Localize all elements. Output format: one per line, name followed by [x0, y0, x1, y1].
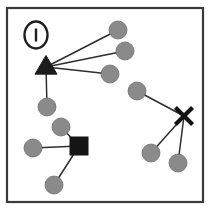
figure-root: 1: [0, 0, 210, 210]
node-circle-c3: [101, 65, 119, 83]
node-circle-c8: [52, 118, 70, 136]
node-circle-c9: [24, 139, 42, 157]
node-circle-c6: [142, 144, 160, 162]
node-circle-c7: [169, 154, 187, 172]
node-circle-c10: [45, 176, 63, 194]
node-circle-c5: [128, 82, 146, 100]
node-link-diagram: [0, 0, 210, 210]
node-circle-c4: [38, 98, 56, 116]
edge-t1-c1: [46, 30, 118, 67]
edge-t1-c2: [46, 51, 125, 67]
node-circle-c1: [109, 21, 127, 39]
node-circle-c2: [116, 42, 134, 60]
panel-label-badge: [25, 22, 48, 49]
node-square-s1: [70, 137, 88, 155]
node-cross-x1: [175, 107, 192, 124]
